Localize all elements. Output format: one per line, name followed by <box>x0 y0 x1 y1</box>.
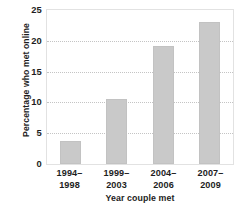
y-axis-tick-5: 5 <box>0 127 42 138</box>
x-axis-tick-label: 2004–2006 <box>140 168 187 191</box>
bar[interactable] <box>106 99 127 164</box>
x-axis-tick-label: 1994–1998 <box>46 168 93 191</box>
bars-container <box>47 10 233 164</box>
x-axis-title: Year couple met <box>46 193 234 203</box>
y-axis-tick-20: 20 <box>0 34 42 45</box>
x-axis-tick-line: 2006 <box>140 180 187 192</box>
x-axis-tick-line: 2003 <box>93 180 140 192</box>
x-axis-tick-line: 2004– <box>151 168 177 178</box>
bar-slot <box>47 10 94 164</box>
x-axis-tick-label: 2007–2009 <box>187 168 234 191</box>
y-axis-tick-10: 10 <box>0 96 42 107</box>
x-axis-tick-line: 1994– <box>57 168 83 178</box>
bar-chart: Percentage who met online 0510152025 199… <box>0 0 240 209</box>
x-axis-tick-labels: 1994–19981999–20032004–20062007–2009 <box>46 168 234 191</box>
x-axis-tick-line: 2009 <box>187 180 234 192</box>
bar-slot <box>140 10 187 164</box>
plot-area <box>46 9 234 165</box>
y-axis-tick-15: 15 <box>0 65 42 76</box>
y-axis-tick-labels: 0510152025 <box>0 0 42 209</box>
x-axis-tick-label: 1999–2003 <box>93 168 140 191</box>
x-axis-tick-line: 1999– <box>104 168 130 178</box>
x-axis-tick-line: 1998 <box>46 180 93 192</box>
y-axis-tick-0: 0 <box>0 158 42 169</box>
y-axis-tick-25: 25 <box>0 4 42 15</box>
bar[interactable] <box>199 22 220 164</box>
bar[interactable] <box>60 141 81 164</box>
bar-slot <box>94 10 141 164</box>
x-axis-tick-line: 2007– <box>198 168 224 178</box>
bar-slot <box>187 10 234 164</box>
bar[interactable] <box>153 46 174 164</box>
